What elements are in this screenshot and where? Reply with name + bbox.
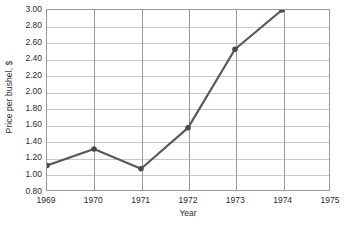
data-point-marker [138, 166, 144, 172]
line-chart: Price per bushel, $ 0.801.001.201.401.60… [0, 0, 347, 232]
data-point-marker [185, 125, 191, 131]
y-axis-tick-label: 2.40 [14, 54, 42, 63]
plot-inner [47, 10, 329, 190]
y-axis-tick-label: 2.80 [14, 21, 42, 30]
x-axis-tick-label: 1972 [168, 195, 208, 206]
series-line [47, 10, 282, 169]
x-axis-tick-label: 1974 [263, 195, 303, 206]
y-axis-tick-labels: 0.801.001.201.401.601.802.002.202.402.60… [14, 9, 42, 191]
y-axis-tick-label: 1.00 [14, 170, 42, 179]
x-axis-tick-label: 1975 [310, 195, 347, 206]
y-axis-tick-label: 3.00 [14, 5, 42, 14]
y-axis-tick-label: 1.20 [14, 153, 42, 162]
x-axis-tick-label: 1970 [73, 195, 113, 206]
x-axis-tick-label: 1969 [26, 195, 66, 206]
y-axis-tick-label: 1.80 [14, 104, 42, 113]
y-axis-tick-label: 2.20 [14, 71, 42, 80]
data-point-marker [91, 146, 97, 152]
plot-area [46, 9, 330, 191]
y-axis-tick-label: 2.00 [14, 87, 42, 96]
data-point-marker [232, 47, 238, 53]
data-series-line [47, 10, 329, 190]
y-axis-tick-label: 1.40 [14, 137, 42, 146]
x-axis-tick-label: 1973 [215, 195, 255, 206]
x-axis-title: Year [46, 208, 330, 219]
y-axis-tick-label: 2.60 [14, 38, 42, 47]
x-axis-tick-labels: 1969197019711972197319741975 [46, 195, 330, 207]
x-axis-tick-label: 1971 [121, 195, 161, 206]
y-axis-tick-label: 1.60 [14, 120, 42, 129]
